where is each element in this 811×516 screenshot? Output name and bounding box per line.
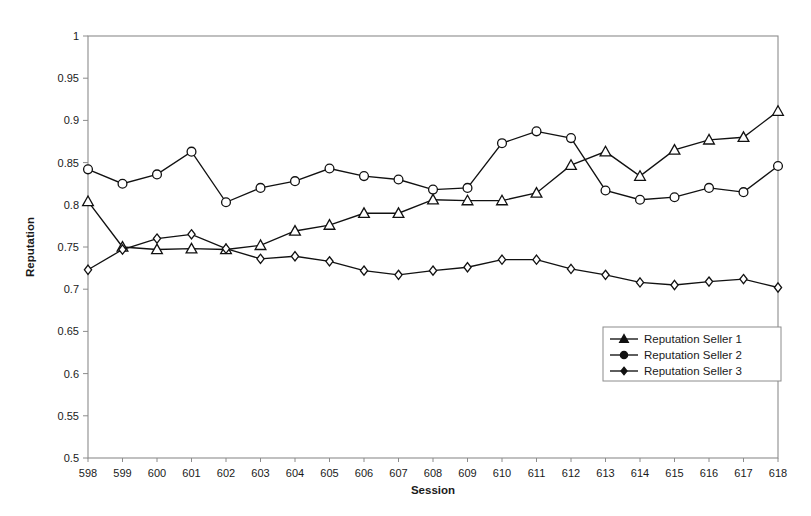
data-point-circle — [187, 147, 196, 156]
data-point-diamond — [188, 230, 195, 239]
y-tick-label: 0.85 — [58, 157, 79, 169]
data-point-diamond — [360, 266, 367, 275]
y-tick-label: 0.9 — [64, 114, 79, 126]
chart-container: 10.950.90.850.80.750.70.650.60.550.5 598… — [0, 0, 811, 516]
data-point-circle — [118, 179, 127, 188]
data-point-circle — [394, 175, 403, 184]
x-tick-label: 605 — [320, 467, 338, 479]
data-point-diamond — [602, 270, 609, 279]
data-point-triangle — [566, 160, 577, 170]
data-point-circle — [325, 164, 334, 173]
data-point-triangle — [255, 240, 266, 250]
data-point-circle — [774, 162, 783, 171]
y-tick-label: 1 — [73, 30, 79, 42]
legend-marker-circle — [620, 351, 627, 358]
data-point-triangle — [428, 194, 439, 204]
x-tick-label: 600 — [148, 467, 166, 479]
data-point-circle — [153, 170, 162, 179]
data-point-diamond — [464, 263, 471, 272]
data-point-diamond — [153, 234, 160, 243]
x-tick-label: 607 — [389, 467, 407, 479]
y-tick-label: 0.55 — [58, 410, 79, 422]
x-axis-title: Session — [411, 484, 455, 496]
data-point-diamond — [326, 257, 333, 266]
legend-item-label: Reputation Seller 2 — [644, 349, 742, 361]
data-point-diamond — [636, 278, 643, 287]
x-tick-label: 614 — [631, 467, 649, 479]
x-tick-label: 599 — [113, 467, 131, 479]
data-point-diamond — [291, 252, 298, 261]
y-tick-label: 0.5 — [64, 452, 79, 464]
x-tick-label: 609 — [458, 467, 476, 479]
data-point-circle — [705, 184, 714, 193]
x-tick-label: 604 — [286, 467, 304, 479]
y-tick-label: 0.8 — [64, 199, 79, 211]
series-triangle — [83, 106, 784, 254]
data-point-diamond — [774, 283, 781, 292]
chart-legend[interactable]: Reputation Seller 1Reputation Seller 2Re… — [603, 327, 781, 381]
data-point-diamond — [671, 280, 678, 289]
x-tick-label: 613 — [596, 467, 614, 479]
data-point-diamond — [740, 274, 747, 283]
y-tick-label: 0.75 — [58, 241, 79, 253]
data-point-diamond — [705, 277, 712, 286]
data-point-triangle — [600, 146, 611, 156]
data-point-circle — [429, 185, 438, 194]
data-point-diamond — [84, 265, 91, 274]
data-point-circle — [636, 195, 645, 204]
x-tick-label: 616 — [700, 467, 718, 479]
y-tick-label: 0.7 — [64, 283, 79, 295]
x-tick-label: 610 — [493, 467, 511, 479]
data-point-circle — [360, 172, 369, 181]
data-point-diamond — [533, 255, 540, 264]
x-tick-label: 603 — [251, 467, 269, 479]
x-tick-label: 612 — [562, 467, 580, 479]
axis-titles: SessionReputation — [24, 217, 455, 496]
x-tick-label: 601 — [182, 467, 200, 479]
data-point-circle — [463, 184, 472, 193]
data-point-circle — [291, 177, 300, 186]
y-tick-label: 0.6 — [64, 368, 79, 380]
x-tick-label: 598 — [79, 467, 97, 479]
data-point-diamond — [567, 264, 574, 273]
y-tick-label: 0.95 — [58, 72, 79, 84]
data-point-circle — [567, 134, 576, 143]
data-point-circle — [498, 139, 507, 148]
y-axis-title: Reputation — [24, 217, 36, 277]
data-point-circle — [84, 165, 93, 174]
x-tick-label: 606 — [355, 467, 373, 479]
data-series-group — [83, 106, 784, 292]
series-diamond — [84, 230, 781, 292]
x-axis-ticks: 5985996006016026036046056066076086096106… — [79, 458, 787, 479]
data-point-circle — [532, 127, 541, 136]
data-point-diamond — [498, 255, 505, 264]
data-point-circle — [601, 186, 610, 195]
data-point-triangle — [635, 171, 646, 181]
legend-item-label: Reputation Seller 1 — [644, 333, 742, 345]
data-point-triangle — [186, 243, 197, 253]
data-point-circle — [739, 188, 748, 197]
data-point-triangle — [773, 106, 784, 116]
legend-item-label: Reputation Seller 3 — [644, 365, 742, 377]
y-axis-ticks: 10.950.90.850.80.750.70.650.60.550.5 — [58, 30, 88, 464]
reputation-line-chart: 10.950.90.850.80.750.70.650.60.550.5 598… — [0, 0, 811, 516]
data-point-circle — [256, 184, 265, 193]
data-point-circle — [670, 193, 679, 202]
x-tick-label: 608 — [424, 467, 442, 479]
data-point-diamond — [257, 254, 264, 263]
x-tick-label: 615 — [665, 467, 683, 479]
data-point-circle — [222, 198, 231, 207]
data-point-triangle — [83, 196, 94, 206]
x-tick-label: 617 — [734, 467, 752, 479]
x-tick-label: 602 — [217, 467, 235, 479]
x-tick-label: 611 — [528, 467, 546, 479]
data-point-diamond — [395, 270, 402, 279]
data-point-diamond — [429, 266, 436, 275]
data-point-triangle — [738, 132, 749, 142]
x-tick-label: 618 — [769, 467, 787, 479]
data-point-triangle — [531, 188, 542, 198]
y-tick-label: 0.65 — [58, 325, 79, 337]
